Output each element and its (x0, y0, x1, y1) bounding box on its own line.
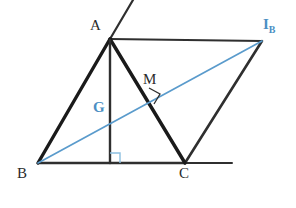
segment-a-ib (110, 39, 262, 41)
geometry-canvas (0, 0, 296, 208)
label-point-ib: IB (263, 17, 276, 35)
label-point-g: G (93, 100, 105, 115)
label-ib-subscript: B (269, 24, 276, 35)
label-point-a: A (90, 18, 101, 33)
ray-through-A (110, 0, 133, 39)
right-angle-marker-h (110, 153, 120, 163)
label-point-c: C (179, 166, 189, 181)
geometry-figure: A B C M G IB (0, 0, 296, 208)
segment-ac (110, 39, 185, 163)
label-point-b: B (17, 166, 27, 181)
segment-c-ib (185, 41, 262, 163)
label-point-m: M (143, 72, 156, 87)
